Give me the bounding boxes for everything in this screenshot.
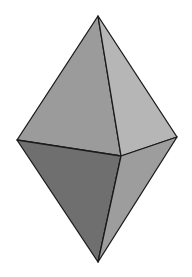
bipyramid-svg <box>0 0 192 277</box>
bipyramid-figure <box>0 0 192 277</box>
